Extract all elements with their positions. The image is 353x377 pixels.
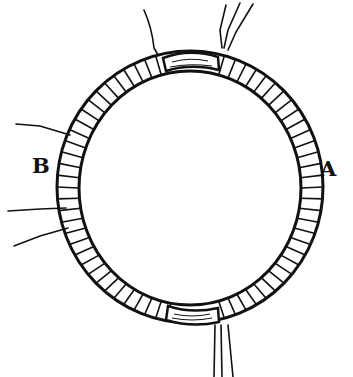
- bare-ring-segments: [163, 53, 219, 325]
- label-a: A: [320, 158, 336, 179]
- coil-windings: [57, 56, 323, 321]
- label-b: B: [32, 155, 50, 176]
- ring-coil-diagram: [0, 0, 353, 377]
- segment-shading: [170, 59, 212, 320]
